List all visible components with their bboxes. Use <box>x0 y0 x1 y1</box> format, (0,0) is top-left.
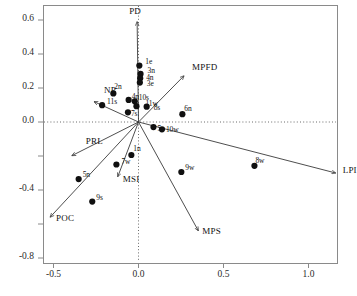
y-axis-tick-label-1: 0.4 <box>0 47 34 57</box>
vector-label-pd: PD <box>129 6 141 16</box>
point-label-5e-12: 5e <box>157 124 164 133</box>
point-label-3e-3: 3e <box>147 79 154 88</box>
y-axis-tick-label-2: 0.2 <box>0 81 34 91</box>
vector-label-prl: PRL <box>86 136 103 146</box>
point-label-1e-0: 1e <box>145 57 152 66</box>
point-label-9s-19: 9s <box>96 193 102 202</box>
point-label-7s-10: 7s <box>131 109 137 118</box>
vector-label-poc: POC <box>56 213 74 223</box>
point-label-1n-14: 1n <box>133 144 140 153</box>
point-label-8s-9: 8s <box>154 103 160 112</box>
point-label-11s-5: 11s <box>107 97 117 106</box>
data-point-1e[interactable] <box>136 62 142 68</box>
point-label-9w-17: 9w <box>185 163 194 172</box>
vector-prl <box>72 122 139 156</box>
vector-label-mpfd: MPFD <box>192 62 217 72</box>
data-point-9w[interactable] <box>178 169 184 175</box>
point-label-8w-18: 8w <box>255 156 264 165</box>
vector-label-msi: MSI <box>123 174 140 184</box>
data-point-5n[interactable] <box>76 176 82 182</box>
x-axis-tick-label-1: 0.0 <box>126 269 152 279</box>
data-point-3e[interactable] <box>137 79 143 85</box>
point-label-10w-13: 10w <box>166 125 179 134</box>
y-axis-tick-label-3: 0.0 <box>0 115 34 125</box>
vector-mps <box>139 122 199 231</box>
data-point-11s[interactable] <box>99 102 105 108</box>
x-axis-tick-label-3: 1.0 <box>296 269 322 279</box>
vector-label-lpi: LPI <box>343 165 357 175</box>
y-axis-tick-label-7: -0.8 <box>0 251 34 261</box>
data-point-7w[interactable] <box>113 161 119 167</box>
point-label-6n-11: 6n <box>184 104 191 113</box>
y-axis-tick-label-5: -0.4 <box>0 183 34 193</box>
point-label-7w-15: 7w <box>121 157 130 166</box>
vector-label-mps: MPS <box>202 226 221 236</box>
x-axis-tick-label-0: -0.5 <box>41 269 67 279</box>
vector-label-np: NP <box>104 85 116 95</box>
data-point-9s[interactable] <box>89 198 95 204</box>
point-label-5n-16: 5n <box>83 170 90 179</box>
data-point-5e[interactable] <box>150 124 156 130</box>
x-axis-tick-label-2: 0.5 <box>211 269 237 279</box>
plot-frame <box>44 6 338 264</box>
y-axis-tick-label-0: 0.6 <box>0 13 34 23</box>
